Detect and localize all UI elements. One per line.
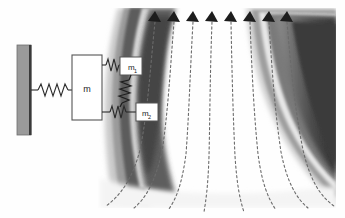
fixed-wall [17, 45, 32, 135]
mass-m1: m 1 [120, 57, 142, 75]
spring-m-to-m1 [102, 59, 120, 71]
spring-m-to-m2 [102, 106, 136, 118]
mass-m2: m 2 [136, 103, 158, 121]
mass-spring-damper-schematic: m m 1 m 2 [0, 0, 345, 218]
spring-m1-to-m2-diagonal [119, 75, 131, 107]
mass-m: m [72, 55, 102, 120]
mass-m-label: m [83, 84, 91, 94]
spring-wall-to-m [31, 84, 72, 96]
mass-m2-subscript: 2 [148, 114, 151, 120]
figure-canvas: m m 1 m 2 [0, 0, 345, 218]
mass-m1-subscript: 1 [134, 68, 137, 74]
